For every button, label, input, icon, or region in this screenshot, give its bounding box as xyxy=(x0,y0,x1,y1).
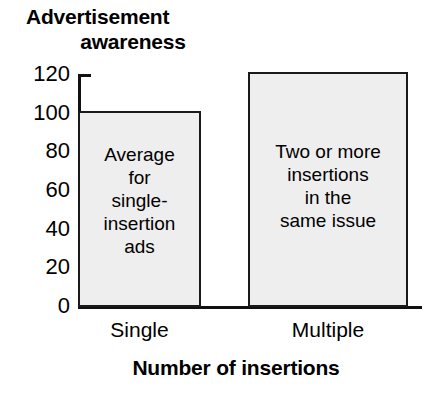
bar-single-annotation-line-5: ads xyxy=(83,235,196,258)
bar-multiple-annotation-line-1: Two or more xyxy=(253,140,403,163)
bar-single-annotation: Average for single- insertion ads xyxy=(80,143,199,258)
y-tick-label-80: 80 xyxy=(10,140,70,162)
chart-title: Advertisement awareness xyxy=(26,4,266,54)
chart-title-line-1: Advertisement xyxy=(26,4,266,29)
bar-multiple[interactable]: Two or more insertions in the same issue xyxy=(248,72,408,307)
category-label-multiple: Multiple xyxy=(248,318,408,342)
bar-multiple-annotation-line-4: same issue xyxy=(253,209,403,232)
bar-chart: Advertisement awareness 120 100 80 60 40… xyxy=(0,0,448,401)
bar-single-annotation-line-4: insertion xyxy=(83,212,196,235)
bar-multiple-annotation-line-2: insertions xyxy=(253,163,403,186)
y-tick-label-0: 0 xyxy=(10,295,70,317)
y-tick-label-40: 40 xyxy=(10,218,70,240)
bar-single-annotation-line-3: single- xyxy=(83,189,196,212)
y-tick-120: 120 xyxy=(80,74,91,77)
y-tick-label-20: 20 xyxy=(10,256,70,278)
bar-multiple-annotation: Two or more insertions in the same issue xyxy=(250,140,406,232)
plot-area: 120 100 80 60 40 20 0 Average for single… xyxy=(78,74,422,310)
chart-title-line-2: awareness xyxy=(26,29,266,54)
bar-single-annotation-line-2: for xyxy=(83,166,196,189)
category-label-single: Single xyxy=(78,318,201,342)
x-axis-title: Number of insertions xyxy=(0,356,448,380)
y-tick-label-120: 120 xyxy=(10,63,70,85)
bar-multiple-annotation-line-3: in the xyxy=(253,186,403,209)
y-tick-label-60: 60 xyxy=(10,179,70,201)
y-tick-label-100: 100 xyxy=(10,102,70,124)
bar-single-annotation-line-1: Average xyxy=(83,143,196,166)
bar-single[interactable]: Average for single- insertion ads xyxy=(78,111,201,307)
